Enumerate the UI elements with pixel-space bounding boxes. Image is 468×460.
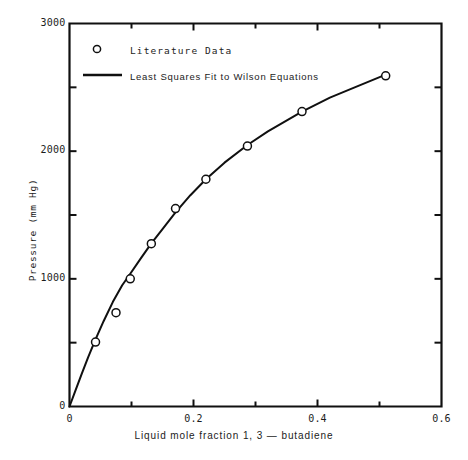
chart-figure: Pressure (mm Hg) Liquid mole fraction 1,…: [0, 0, 468, 460]
legend-label-least-squares-fit: Least Squares Fit to Wilson Equations: [130, 71, 319, 82]
y-axis-tick-label: 0: [59, 400, 65, 411]
data-point-marker: [382, 72, 390, 80]
legend-marker-circle-icon: [93, 45, 100, 52]
x-axis-tick-label: 0.6: [417, 413, 467, 424]
plot-canvas: [0, 0, 468, 460]
y-axis-label: Pressure (mm Hg): [27, 179, 38, 282]
x-axis-tick-label: 0: [45, 413, 95, 424]
data-point-marker: [112, 309, 120, 317]
legend-label-literature-data: Literature Data: [130, 45, 232, 56]
data-point-marker: [92, 338, 100, 346]
y-axis-tick-label: 2000: [41, 144, 66, 155]
y-axis-tick-label: 1000: [41, 272, 66, 283]
data-point-marker: [147, 240, 155, 248]
data-point-marker: [202, 175, 210, 183]
x-axis-tick-label: 0.2: [169, 413, 219, 424]
data-point-marker: [298, 108, 306, 116]
y-axis-tick-label: 3000: [41, 17, 66, 28]
data-point-marker: [243, 142, 251, 150]
y-axis-label-wrapper: Pressure (mm Hg): [24, 160, 40, 300]
data-point-marker: [126, 275, 134, 283]
fitted-curve: [70, 75, 386, 407]
x-axis-tick-label: 0.4: [293, 413, 343, 424]
x-axis-label: Liquid mole fraction 1, 3 — butadiene: [0, 430, 468, 441]
data-point-marker: [172, 205, 180, 213]
